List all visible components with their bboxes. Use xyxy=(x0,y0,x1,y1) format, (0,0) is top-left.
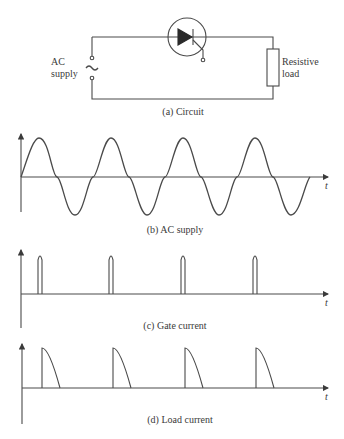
gate-lead xyxy=(193,40,203,58)
gate-current-plot xyxy=(21,250,328,328)
terminal-top xyxy=(90,56,94,60)
load-pulse xyxy=(113,348,131,388)
ac-axis-label: t xyxy=(325,180,328,191)
ac-supply-label-line2: supply xyxy=(51,68,78,80)
gate-pulse xyxy=(109,256,113,294)
gate-current-caption: (c) Gate current xyxy=(143,320,206,332)
load-label-line2: load xyxy=(282,68,299,80)
ac-supply-caption: (b) AC supply xyxy=(147,224,204,236)
load-pulse xyxy=(185,348,203,388)
circuit xyxy=(86,18,279,99)
wire-left-lower xyxy=(92,80,273,99)
ac-supply-plot xyxy=(21,134,328,215)
gate-axis-label: t xyxy=(325,297,328,308)
circuit-caption: (a) Circuit xyxy=(162,106,203,118)
thyristor-triangle xyxy=(178,29,192,45)
wire-top-right xyxy=(206,37,273,49)
gate-terminal xyxy=(201,58,205,62)
gate-pulse xyxy=(38,256,42,294)
load-pulse xyxy=(42,348,60,388)
gate-pulse xyxy=(181,256,185,294)
gate-pulse xyxy=(253,256,257,294)
load-label-line1: Resistive xyxy=(282,56,319,68)
load-current-plot xyxy=(22,344,328,424)
load-pulse xyxy=(256,348,274,388)
ac-source-icon xyxy=(86,66,98,70)
resistor-icon xyxy=(267,49,279,86)
load-axis-label: t xyxy=(325,391,328,402)
terminal-bottom xyxy=(90,76,94,80)
ac-supply-label-line1: AC xyxy=(51,56,65,68)
load-current-caption: (d) Load current xyxy=(147,414,213,426)
